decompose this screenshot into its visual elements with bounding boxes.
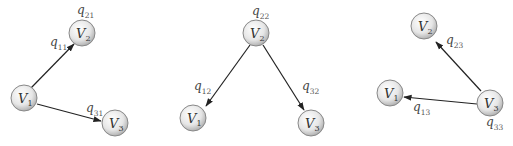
label-q13: q13 (413, 100, 430, 117)
edge-v2-v3 (263, 45, 304, 110)
node-v1: V1 (180, 105, 206, 131)
label-q31: q31 (86, 101, 103, 118)
label-q33: q33 (486, 115, 503, 132)
label-q32: q32 (302, 79, 319, 96)
label-q12: q12 (194, 79, 211, 96)
panel-1: V1 V2 V3 q11 q21 q31 (11, 3, 128, 136)
node-v2: V2 (411, 13, 437, 39)
label-q22: q22 (252, 4, 269, 21)
node-v2: V2 (243, 20, 269, 46)
edge-v1-v2 (30, 44, 74, 89)
node-v2: V2 (69, 20, 95, 46)
node-v3: V3 (102, 110, 128, 136)
node-v1: V1 (11, 85, 37, 111)
edge-v2-v1 (206, 45, 250, 106)
node-v1: V1 (377, 80, 403, 106)
panel-3: V2 V1 V3 q23 q13 q33 (377, 13, 503, 132)
node-v3: V3 (477, 90, 503, 116)
panel-2: V2 V1 V3 q22 q12 q32 (180, 4, 324, 136)
node-v3: V3 (298, 110, 324, 136)
label-q11: q11 (50, 35, 67, 52)
label-q23: q23 (446, 33, 463, 50)
diagram-canvas: V1 V2 V3 q11 q21 q31 V2 V1 V3 q22 q12 (0, 0, 513, 146)
label-q21: q21 (77, 3, 94, 20)
